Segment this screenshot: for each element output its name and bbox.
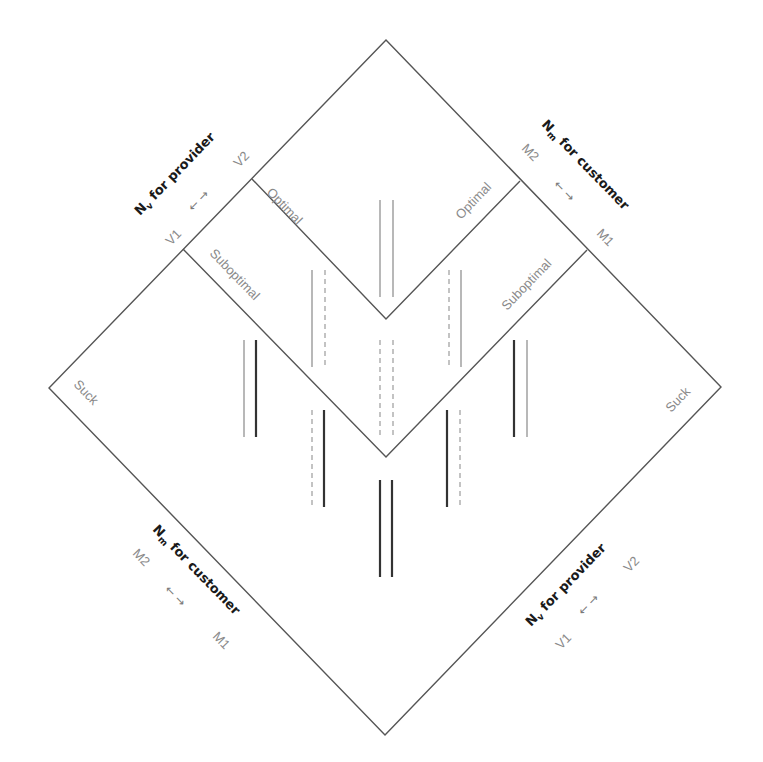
axis-end-high-m2: M2	[130, 546, 153, 569]
region-label-optimal-right: Optimal	[452, 179, 494, 222]
axis-arrows-icon: ← →	[162, 582, 189, 609]
axis-end-low-v1: V1	[552, 630, 574, 652]
region-label-suck-right: Suck	[662, 384, 693, 416]
axis-arrows-icon: ← →	[185, 187, 212, 214]
axis-title: Nm for customer	[148, 522, 243, 620]
axis-end-high-m2: M2	[519, 141, 542, 164]
axis-top-left: Nv for provider	[131, 129, 219, 220]
axis-end-high-v2: V2	[620, 553, 642, 575]
region-label-suck-left: Suck	[71, 377, 102, 409]
axis-end-high-v2: V2	[230, 148, 252, 170]
axis-bottom-right: Nv for provider	[522, 540, 610, 631]
vertical-line-pairs	[244, 200, 527, 577]
axis-end-low-m1: M1	[594, 226, 617, 249]
axis-arrows-icon: ← →	[551, 177, 578, 204]
region-label-suboptimal-right: Suboptimal	[498, 256, 554, 313]
axis-title: Nv for provider	[522, 540, 610, 631]
axis-arrows-icon: ← →	[575, 591, 602, 618]
quality-diamond-diagram: Optimal Optimal Suboptimal Suboptimal Su…	[0, 0, 763, 762]
outer-diamond	[49, 40, 721, 735]
axis-end-low-m1: M1	[210, 629, 233, 652]
axis-title: Nm for customer	[537, 117, 632, 215]
axis-title: Nv for provider	[131, 129, 219, 220]
region-label-optimal-left: Optimal	[264, 185, 306, 228]
axis-end-low-v1: V1	[162, 226, 184, 248]
axis-bottom-left: Nm for customer	[148, 522, 243, 620]
region-label-suboptimal-left: Suboptimal	[207, 246, 263, 303]
axis-top-right: Nm for customer	[537, 117, 632, 215]
